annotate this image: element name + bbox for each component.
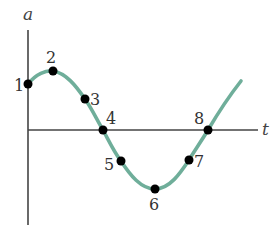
point-2-marker: [49, 67, 58, 76]
acceleration-time-graph: a t 12345678: [0, 0, 273, 226]
point-3-label: 3: [90, 90, 100, 109]
point-8-label: 8: [194, 109, 204, 128]
point-1-marker: [24, 80, 33, 89]
point-6-label: 6: [149, 195, 159, 214]
point-1-label: 1: [14, 76, 24, 95]
point-5-label: 5: [104, 155, 114, 174]
point-5-marker: [117, 157, 126, 166]
y-axis-label: a: [23, 4, 33, 24]
point-7-label: 7: [194, 152, 204, 171]
point-3-marker: [81, 95, 90, 104]
point-7-marker: [185, 156, 194, 165]
point-4-label: 4: [106, 109, 116, 128]
point-2-label: 2: [46, 48, 56, 67]
x-axis-label: t: [262, 119, 269, 139]
point-8-marker: [204, 126, 213, 135]
point-6-marker: [151, 185, 160, 194]
